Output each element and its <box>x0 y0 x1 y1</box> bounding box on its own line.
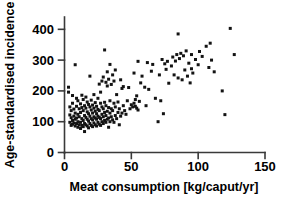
data-point <box>68 113 71 116</box>
data-point <box>170 64 173 67</box>
data-point <box>112 102 115 105</box>
y-axis-tick-labels: 0100200300400 <box>32 22 54 160</box>
data-point <box>102 115 105 118</box>
data-point <box>162 112 165 115</box>
data-point <box>181 78 184 81</box>
data-point <box>76 99 79 102</box>
data-point <box>106 84 109 87</box>
data-point <box>91 118 94 121</box>
data-point <box>99 124 102 127</box>
data-point <box>131 105 134 108</box>
data-point <box>91 125 94 128</box>
y-axis-tickmarks <box>59 29 65 152</box>
data-point <box>126 99 129 102</box>
x-axis-title: Meat consumption [kg/caput/yr] <box>70 180 259 194</box>
data-point <box>112 121 115 124</box>
data-point <box>174 60 177 63</box>
data-point <box>67 86 70 89</box>
data-point <box>118 123 121 126</box>
data-point <box>67 91 70 94</box>
data-point <box>102 107 105 110</box>
data-point <box>197 63 200 66</box>
data-point <box>122 104 125 107</box>
data-point <box>107 106 110 109</box>
data-point <box>179 52 182 55</box>
data-point <box>129 107 132 110</box>
data-point <box>190 67 193 70</box>
data-point <box>72 115 75 118</box>
x-tick-label: 50 <box>124 159 138 174</box>
data-point <box>165 68 168 71</box>
data-point <box>104 81 107 84</box>
data-point <box>82 98 85 101</box>
data-point <box>143 86 146 89</box>
data-point <box>103 111 106 114</box>
data-point <box>108 63 111 66</box>
data-point <box>75 117 78 120</box>
data-point <box>146 61 149 64</box>
data-point <box>119 78 122 81</box>
data-point <box>91 112 94 115</box>
data-point <box>183 68 186 71</box>
data-point <box>116 111 119 114</box>
data-point <box>138 100 141 103</box>
data-point <box>104 104 107 107</box>
data-point <box>118 107 121 110</box>
data-point <box>91 104 94 107</box>
data-point <box>99 91 102 94</box>
data-point <box>102 122 105 125</box>
data-point <box>103 48 106 51</box>
data-point <box>111 73 114 76</box>
scatter-data-points <box>67 27 236 133</box>
data-point <box>189 81 192 84</box>
data-point <box>122 85 125 88</box>
data-point <box>123 109 126 112</box>
data-point <box>223 113 226 116</box>
y-tick-label: 100 <box>32 114 54 129</box>
data-point <box>108 120 111 123</box>
data-point <box>107 126 110 129</box>
data-point <box>187 62 190 65</box>
data-point <box>185 49 188 52</box>
data-point <box>124 113 127 116</box>
data-point <box>102 76 105 79</box>
x-tick-label: 0 <box>61 159 68 174</box>
data-point <box>173 73 176 76</box>
data-point <box>80 94 83 97</box>
data-point <box>79 127 82 130</box>
data-point <box>114 105 117 108</box>
scatter-plot-figure: 0100200300400 050100150 Meat consumption… <box>0 0 285 197</box>
data-point <box>108 99 111 102</box>
data-point <box>82 125 85 128</box>
data-point <box>151 63 154 66</box>
data-point <box>194 58 197 61</box>
data-point <box>137 109 140 112</box>
data-point <box>190 53 193 56</box>
data-point <box>116 101 119 104</box>
data-point <box>161 58 164 61</box>
data-point <box>210 59 213 62</box>
data-point <box>110 83 113 86</box>
data-point <box>233 53 236 56</box>
data-point <box>141 75 144 78</box>
data-point <box>88 105 91 108</box>
data-point <box>177 32 180 35</box>
y-tick-label: 400 <box>32 22 54 37</box>
data-point <box>108 112 111 115</box>
data-point <box>145 104 148 107</box>
data-point <box>84 107 87 110</box>
data-point <box>213 70 216 73</box>
data-point <box>99 117 102 120</box>
data-point <box>106 70 109 73</box>
data-point <box>99 102 102 105</box>
data-point <box>135 94 138 97</box>
data-point <box>90 109 93 112</box>
data-point <box>198 50 201 53</box>
data-point <box>201 55 204 58</box>
data-point <box>229 27 232 30</box>
data-point <box>133 102 136 105</box>
data-point <box>166 60 169 63</box>
data-point <box>205 45 208 48</box>
data-point <box>95 125 98 128</box>
data-point <box>94 101 97 104</box>
